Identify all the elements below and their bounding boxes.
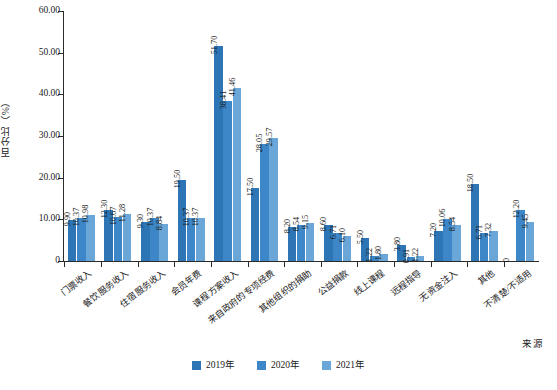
bar-value-label: 9.45: [521, 213, 530, 228]
legend-item[interactable]: 2020年: [257, 360, 300, 371]
bar[interactable]: 38.41: [223, 101, 232, 261]
x-tick-mark: [321, 262, 322, 267]
bar-value-label: 6.71: [329, 225, 338, 240]
x-axis-category-label: 远程指导: [388, 268, 423, 298]
y-tick-label: 20.00: [39, 172, 60, 183]
bar-value-label: 12.30: [100, 199, 109, 218]
bar-chart: 百分比（%） 010.0020.0030.0040.0050.0060.009.…: [0, 0, 557, 390]
bar-value-label: 5.50: [356, 230, 365, 245]
x-tick-mark: [138, 262, 139, 267]
bar[interactable]: 9.15: [306, 223, 315, 261]
bar-group: 9.3010.378.84: [141, 11, 168, 261]
legend-swatch: [192, 361, 201, 370]
x-tick-mark: [504, 262, 505, 267]
bar-value-label: 10.98: [81, 205, 90, 224]
bar-group: 012.209.45: [507, 11, 534, 261]
y-tick-label: 40.00: [39, 88, 60, 99]
bar[interactable]: 41.46: [233, 88, 242, 261]
bar-value-label: 7.20: [429, 223, 438, 238]
bar-value-label: 41.46: [228, 78, 237, 97]
bar-group: 12.3010.6711.28: [104, 11, 131, 261]
legend-item[interactable]: 2019年: [192, 360, 235, 371]
bar-value-label: 6.10: [338, 227, 347, 242]
bar-value-label: 11.28: [118, 204, 127, 222]
bar-value-label: 10.67: [109, 206, 118, 225]
bar[interactable]: 10.98: [86, 215, 95, 261]
bar-value-label: 10.06: [438, 209, 447, 228]
x-axis-category-label: 公益捐款: [315, 268, 350, 298]
bar-value-label: 38.41: [219, 91, 228, 110]
bar[interactable]: 1.22: [416, 256, 425, 261]
bar-group: 7.2010.068.54: [434, 11, 461, 261]
bar[interactable]: 18.50: [471, 184, 480, 261]
bar[interactable]: 8.84: [159, 224, 168, 261]
bar-value-label: 0.91: [402, 249, 411, 264]
bar-group: 5.501.221.80: [361, 11, 388, 261]
legend-label: 2021年: [336, 360, 365, 371]
bar[interactable]: 6.10: [343, 236, 352, 261]
x-axis-category-label: 会员年费: [169, 268, 204, 298]
bar[interactable]: 17.50: [251, 188, 260, 261]
bar-group: 3.800.911.22: [397, 11, 424, 261]
bar-value-label: 12.20: [512, 200, 521, 219]
y-tick-label: 50.00: [39, 47, 60, 58]
bar[interactable]: 8.54: [297, 225, 306, 261]
bar-value-label: 1.80: [374, 245, 383, 260]
bar-value-label: 10.37: [146, 207, 155, 226]
bar[interactable]: 8.54: [452, 225, 461, 261]
bar-value-label: 8.20: [283, 219, 292, 234]
bar-value-label: 9.90: [63, 211, 72, 226]
x-tick-mark: [357, 262, 358, 267]
bar-group: 17.5028.0529.57: [251, 11, 278, 261]
x-axis-category-label: 线上课程: [352, 268, 387, 298]
source-caption: 来源: [522, 339, 543, 350]
x-axis-category-label: 无资金注入: [418, 268, 460, 304]
bar-value-label: 9.30: [136, 214, 145, 229]
bar-value-label: 18.50: [466, 174, 475, 193]
bar[interactable]: 51.70: [214, 46, 223, 261]
x-axis-category-label: 来自政府的专项经费: [207, 268, 277, 326]
legend-item[interactable]: 2021年: [322, 360, 365, 371]
legend-label: 2020年: [271, 360, 300, 371]
bar-value-label: 8.60: [319, 217, 328, 232]
x-axis-category-label: 门票收入: [59, 268, 94, 298]
y-axis-title: 百分比（%）: [1, 96, 15, 157]
bar-value-label: 8.54: [292, 217, 301, 232]
bar[interactable]: 10.37: [77, 218, 86, 261]
bar-value-label: 8.84: [155, 216, 164, 231]
y-tick-label: 60.00: [39, 5, 60, 16]
bar[interactable]: 28.05: [260, 144, 269, 261]
bar[interactable]: 1.80: [379, 254, 388, 262]
chart-legend: 2019年2020年2021年: [0, 360, 557, 371]
bar-value-label: 8.54: [448, 217, 457, 232]
bar[interactable]: 7.20: [434, 231, 443, 261]
bar-value-label: 19.50: [173, 169, 182, 188]
x-tick-mark: [174, 262, 175, 267]
bar-value-label: 29.57: [265, 127, 274, 146]
bar[interactable]: 10.67: [114, 217, 123, 261]
bar[interactable]: 29.57: [269, 138, 278, 261]
bar-value-label: 7.32: [484, 222, 493, 237]
x-tick-mark: [248, 262, 249, 267]
bar-value-label: 9.15: [301, 215, 310, 230]
bar-group: 8.606.716.10: [324, 11, 351, 261]
x-tick-mark: [467, 262, 468, 267]
bar-value-label: 3.80: [393, 237, 402, 252]
bar[interactable]: 10.37: [196, 218, 205, 261]
bar[interactable]: 8.20: [288, 227, 297, 261]
x-tick-mark: [394, 262, 395, 267]
x-tick-mark: [211, 262, 212, 267]
x-tick-mark: [101, 262, 102, 267]
x-tick-mark: [284, 262, 285, 267]
bar-value-label: 6.71: [475, 225, 484, 240]
bar[interactable]: 9.45: [526, 222, 535, 261]
x-tick-mark: [64, 262, 65, 267]
bar[interactable]: 11.28: [123, 214, 132, 261]
bar-value-label: 51.70: [210, 35, 219, 54]
legend-swatch: [322, 361, 331, 370]
y-tick-label: 30.00: [39, 130, 60, 141]
y-tick-label: 10.00: [39, 213, 60, 224]
bar[interactable]: 9.30: [141, 222, 150, 261]
bar[interactable]: 7.32: [489, 231, 498, 262]
x-axis-category-label: 其他: [476, 268, 496, 287]
